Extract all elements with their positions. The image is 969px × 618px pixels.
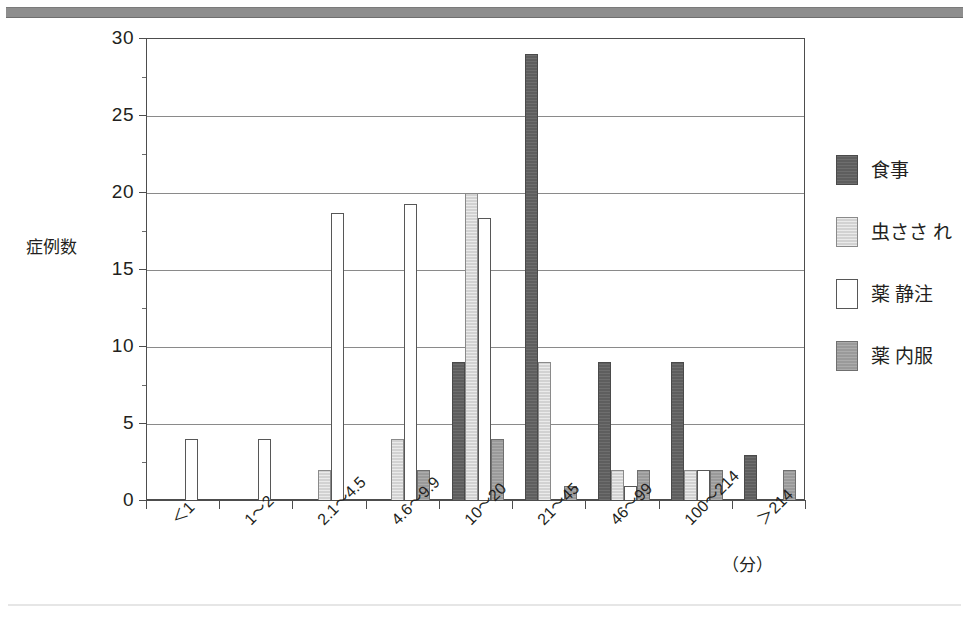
x-tick (366, 501, 367, 509)
legend-label-bite: 虫ささ れ (871, 222, 952, 243)
y-tick-20 (139, 192, 146, 193)
legend-swatch-bite-icon (836, 217, 858, 247)
bar-bite-3 (391, 439, 404, 501)
legend-label-meal: 食事 (871, 160, 909, 181)
y-axis-line (146, 38, 147, 501)
legend-swatch-oral-icon (836, 341, 858, 371)
bar-iv-0 (185, 439, 198, 501)
plot-area (146, 38, 805, 500)
legend-item-meal[interactable]: 食事 (836, 158, 964, 182)
y-tick-10 (139, 346, 146, 347)
legend-item-bite[interactable]: 虫ささ れ (836, 220, 964, 244)
bar-iv-3 (404, 204, 417, 501)
legend-label-iv: 薬 静注 (871, 284, 933, 305)
y-tick-30 (139, 38, 146, 39)
x-tick-label-0: ＜1 (168, 498, 198, 528)
bar-bite-6 (611, 470, 624, 501)
y-minor-tick (142, 77, 146, 78)
y-tick-label-0: 0 (92, 490, 134, 509)
bar-iv-4 (478, 218, 491, 501)
x-tick (732, 501, 733, 509)
y-tick-label-20: 20 (92, 182, 134, 201)
legend-label-oral: 薬 内服 (871, 346, 933, 367)
y-tick-label-5: 5 (92, 413, 134, 432)
x-axis-unit-label: （分） (722, 556, 773, 575)
y-tick-label-15: 15 (92, 259, 134, 278)
y-tick-15 (139, 269, 146, 270)
y-minor-tick (142, 308, 146, 309)
y-axis-title: 症例数 (26, 238, 77, 258)
x-tick (805, 501, 806, 509)
y-minor-tick (142, 462, 146, 463)
y-tick-label-30: 30 (92, 28, 134, 47)
figure-page: 症例数 051015202530 ＜11〜22.1〜4.54.6〜9.910〜2… (0, 0, 969, 618)
y-tick-25 (139, 115, 146, 116)
gridline-25 (147, 116, 804, 117)
bar-bite-7 (684, 470, 697, 501)
legend-swatch-meal-icon (836, 155, 858, 185)
chart-legend: 食事虫ささ れ薬 静注薬 内服 (836, 158, 964, 406)
legend-swatch-iv-icon (836, 279, 858, 309)
y-minor-tick (142, 231, 146, 232)
y-minor-tick (142, 154, 146, 155)
x-tick (439, 501, 440, 509)
y-tick-label-10: 10 (92, 336, 134, 355)
legend-item-oral[interactable]: 薬 内服 (836, 344, 964, 368)
bar-bite-2 (318, 470, 331, 501)
x-tick (146, 501, 147, 509)
legend-item-iv[interactable]: 薬 静注 (836, 282, 964, 306)
y-tick-0 (139, 500, 146, 501)
bar-meal-5 (525, 54, 538, 501)
bar-iv-2 (331, 213, 344, 501)
bar-bite-5 (538, 362, 551, 501)
x-tick (292, 501, 293, 509)
bar-chart: 症例数 051015202530 ＜11〜22.1〜4.54.6〜9.910〜2… (0, 0, 969, 618)
bar-meal-7 (671, 362, 684, 501)
y-tick-label-25: 25 (92, 105, 134, 124)
bar-meal-4 (452, 362, 465, 501)
bar-meal-8 (744, 455, 757, 501)
bar-meal-6 (598, 362, 611, 501)
x-tick (512, 501, 513, 509)
x-tick (219, 501, 220, 509)
x-tick (659, 501, 660, 509)
y-tick-5 (139, 423, 146, 424)
x-tick (585, 501, 586, 509)
y-minor-tick (142, 385, 146, 386)
bar-bite-4 (465, 193, 478, 501)
